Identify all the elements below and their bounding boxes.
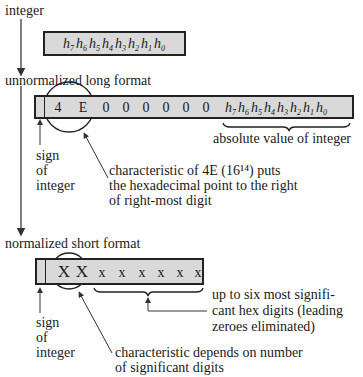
hex-digit: h4	[102, 36, 115, 51]
char-digit-E: E	[76, 98, 90, 118]
fraction-digit: x	[154, 263, 168, 283]
sign-label-short-3: integer	[36, 345, 75, 361]
hex-digit: h0	[154, 36, 167, 51]
char-short-line-1: characteristic depends on number	[115, 345, 303, 361]
sign-cell-divider	[45, 260, 46, 283]
hex-digit: h2	[290, 100, 303, 115]
integer-heading: integer	[5, 3, 44, 19]
char-short-line-2: of significant digits	[115, 360, 224, 376]
zero-digit: 0	[139, 98, 153, 118]
sign-label-long-1: sign	[36, 148, 59, 164]
char-pointer-short	[80, 294, 112, 353]
sign-label-short-2: of	[36, 330, 48, 346]
long-format-box: 4 E 0 0 0 0 0 0 h7h6h5h4h3h2h1h0	[34, 95, 354, 119]
hex-digit: h1	[141, 36, 154, 51]
hex-digit: h5	[251, 100, 264, 115]
zero-digit: 0	[119, 98, 133, 118]
hex-digit: h7	[225, 100, 238, 115]
fraction-digit: x	[135, 263, 149, 283]
hex-digit: h7	[63, 36, 76, 51]
fraction-digit: x	[191, 263, 205, 283]
fraction-digit: x	[95, 263, 109, 283]
short-format-box: X X x x x x x x	[35, 258, 204, 285]
char-long-line-1: characteristic of 4E (16¹⁴) puts	[109, 163, 281, 179]
char-digit-X: X	[57, 262, 71, 282]
sign-label-long-2: of	[36, 163, 48, 179]
sign-label-long-3: integer	[36, 178, 75, 194]
hex-digit: h4	[264, 100, 277, 115]
brace-abs-value	[223, 123, 350, 131]
sign-cell-divider	[44, 97, 45, 117]
fraction-digit: x	[173, 263, 187, 283]
hex-digit: h5	[89, 36, 102, 51]
char-long-line-3: of right-most digit	[109, 193, 212, 209]
normalized-heading: normalized short format	[5, 236, 140, 252]
zero-digit: 0	[179, 98, 193, 118]
abs-value-label: absolute value of integer	[213, 131, 351, 147]
hex-digit: h0	[316, 100, 329, 115]
hex-digit: h6	[238, 100, 251, 115]
six-digits-line-3: zeroes eliminated)	[212, 319, 315, 335]
hex-digit: h3	[277, 100, 290, 115]
six-digits-line-1: up to six most signifi-	[212, 287, 335, 303]
hex-digit: h6	[76, 36, 89, 51]
long-hex-digits: h7h6h5h4h3h2h1h0	[225, 98, 329, 123]
unnormalized-heading: unnormalized long format	[5, 73, 151, 89]
char-digit-X: X	[75, 262, 89, 282]
sign-label-short-1: sign	[36, 315, 59, 331]
hex-digit: h1	[303, 100, 316, 115]
integer-box: h7h6h5h4h3h2h1h0	[43, 31, 186, 56]
integer-hex-digits: h7h6h5h4h3h2h1h0	[63, 34, 167, 59]
char-pointer-long	[85, 135, 108, 178]
brace-six-digits	[94, 288, 203, 296]
hex-digit: h2	[128, 36, 141, 51]
fraction-digit: x	[115, 263, 129, 283]
char-digit-4: 4	[51, 98, 65, 118]
char-long-line-2: the hexadecimal point to the right	[109, 178, 298, 194]
zero-digit: 0	[99, 98, 113, 118]
six-digits-connector	[148, 300, 207, 311]
hex-digit: h3	[115, 36, 128, 51]
zero-digit: 0	[199, 98, 213, 118]
six-digits-line-2: cant hex digits (leading	[212, 303, 343, 319]
zero-digit: 0	[159, 98, 173, 118]
